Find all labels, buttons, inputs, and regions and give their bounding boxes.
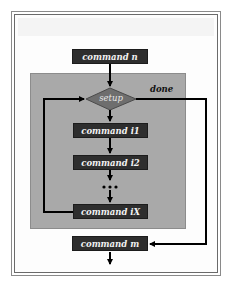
ellipsis-dot [108,185,111,188]
done-label: done [150,84,173,94]
command-iX-box: command iX [73,204,148,219]
ellipsis-dot [114,185,117,188]
done-arrow [136,99,206,244]
command-m-box: command m [72,236,148,251]
command-i2-box: command i2 [73,155,148,170]
command-i1-box: command i1 [73,123,148,138]
ellipsis-dot [102,185,105,188]
setup-label: setup [86,93,136,103]
command-n-box: command n [72,49,148,64]
